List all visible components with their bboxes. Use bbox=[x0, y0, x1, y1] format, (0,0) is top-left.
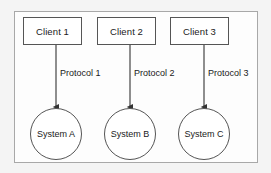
client-node-1-label: Client 1 bbox=[36, 26, 69, 37]
protocol-label-3: Protocol 3 bbox=[208, 68, 249, 78]
diagram-canvas: Client 1 Client 2 Client 3 Protocol 1 Pr… bbox=[0, 0, 271, 173]
client-node-1[interactable]: Client 1 bbox=[23, 17, 82, 45]
client-node-3-label: Client 3 bbox=[183, 26, 216, 37]
client-node-3[interactable]: Client 3 bbox=[170, 17, 229, 45]
system-node-c-label: System C bbox=[184, 129, 223, 139]
system-node-a[interactable]: System A bbox=[30, 108, 82, 160]
protocol-label-1: Protocol 1 bbox=[60, 68, 101, 78]
protocol-label-2: Protocol 2 bbox=[134, 68, 175, 78]
client-node-2[interactable]: Client 2 bbox=[97, 17, 156, 45]
system-node-b[interactable]: System B bbox=[104, 108, 156, 160]
client-node-2-label: Client 2 bbox=[110, 26, 143, 37]
system-node-c[interactable]: System C bbox=[178, 108, 230, 160]
system-node-b-label: System B bbox=[111, 129, 150, 139]
system-node-a-label: System A bbox=[37, 129, 75, 139]
